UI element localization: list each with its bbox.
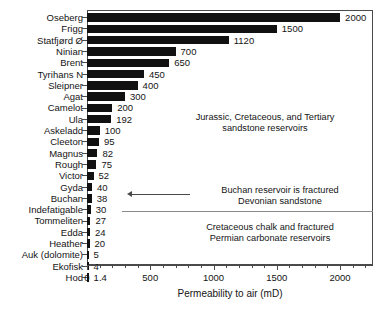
x-axis-title: Permeability to air (mD) xyxy=(87,288,373,299)
x-axis-minor-tick xyxy=(252,265,253,268)
bar-value-label: 75 xyxy=(101,159,112,170)
x-axis-tick-label: 2000 xyxy=(330,272,351,283)
category-label: Cleeton xyxy=(0,136,83,147)
bar xyxy=(87,70,144,78)
chart-row: Magnus82 xyxy=(0,148,392,159)
x-axis-minor-tick xyxy=(264,265,265,268)
x-axis-minor-tick xyxy=(315,265,316,268)
bar-value-label: 1120 xyxy=(234,35,254,46)
bar-value-label: 5 xyxy=(94,249,99,260)
x-axis-major-tick xyxy=(87,265,88,270)
buchan-arrow-head xyxy=(127,191,132,197)
category-label: Rough xyxy=(0,159,83,170)
annotation-line-2: Devonian sandstone xyxy=(190,196,370,207)
chart-row: Victor52 xyxy=(0,170,392,181)
x-axis-minor-tick xyxy=(289,265,290,268)
annotation-line-1: Cretaceous chalk and fractured xyxy=(170,222,370,233)
bar xyxy=(87,239,90,247)
category-label: Camelot xyxy=(0,102,83,113)
bar xyxy=(87,138,99,146)
x-axis-minor-tick xyxy=(125,265,126,268)
x-axis-major-tick xyxy=(214,265,215,270)
bar xyxy=(87,217,90,225)
category-label: Ninian xyxy=(0,46,83,57)
bar-value-label: 52 xyxy=(99,170,110,181)
bar xyxy=(87,251,89,259)
bar-value-label: 1.4 xyxy=(94,272,107,283)
chart-row: Cleeton95 xyxy=(0,136,392,147)
chart-row: Ekofisk4 xyxy=(0,261,392,272)
chart-row: Sleipner400 xyxy=(0,80,392,91)
bar-value-label: 24 xyxy=(95,227,106,238)
annotation-sandstone-note: Jurassic, Cretaceous, and Tertiary sands… xyxy=(160,112,370,133)
annotation-line-2: Permian carbonate reservoirs xyxy=(170,233,370,244)
category-label: Hod xyxy=(0,272,83,283)
annotation-line-1: Jurassic, Cretaceous, and Tertiary xyxy=(160,112,370,123)
bar-value-label: 27 xyxy=(95,215,106,226)
x-axis-minor-tick xyxy=(188,265,189,268)
chart-row: Statfjørd Ø1120 xyxy=(0,35,392,46)
bar xyxy=(87,126,100,134)
x-axis-minor-tick xyxy=(353,265,354,268)
bar-value-label: 82 xyxy=(102,148,113,159)
annotation-line-1: Buchan reservoir is fractured xyxy=(190,185,370,196)
annotation-buchan-note: Buchan reservoir is fractured Devonian s… xyxy=(190,185,370,206)
x-axis-tick-label: 500 xyxy=(142,272,158,283)
x-axis-minor-tick xyxy=(138,265,139,268)
category-label: Magnus xyxy=(0,148,83,159)
bar xyxy=(87,47,176,55)
chart-row: Frigg1500 xyxy=(0,23,392,34)
x-axis-minor-tick xyxy=(327,265,328,268)
bar xyxy=(87,104,112,112)
x-axis-major-tick xyxy=(277,265,278,270)
bar-value-label: 400 xyxy=(143,80,159,91)
bar-value-label: 4 xyxy=(94,261,99,272)
bar xyxy=(87,25,277,33)
category-label: Heather xyxy=(0,238,83,249)
bar xyxy=(87,194,92,202)
bar xyxy=(87,160,96,168)
category-label: Askeladd xyxy=(0,125,83,136)
category-label: Statfjørd Ø xyxy=(0,35,83,46)
bar-value-label: 1500 xyxy=(282,23,303,34)
bar xyxy=(87,13,340,21)
permeability-bar-chart: Oseberg2000Frigg1500Statfjørd Ø1120Ninia… xyxy=(0,0,392,327)
bar xyxy=(87,92,125,100)
bar xyxy=(87,228,90,236)
x-axis-minor-tick xyxy=(365,265,366,268)
chart-row: Tyrihans N450 xyxy=(0,69,392,80)
category-label: Buchan xyxy=(0,193,83,204)
bar xyxy=(87,183,92,191)
x-axis-minor-tick xyxy=(201,265,202,268)
chart-row: Rough75 xyxy=(0,159,392,170)
category-label: Oseberg xyxy=(0,12,83,23)
bar-value-label: 100 xyxy=(105,125,121,136)
chart-row: Brent650 xyxy=(0,57,392,68)
annotation-line-2: sandstone reservoirs xyxy=(160,123,370,134)
bar-value-label: 700 xyxy=(181,46,197,57)
category-label: Indefatigable xyxy=(0,204,83,215)
bar-value-label: 200 xyxy=(117,102,133,113)
chart-row: Oseberg2000 xyxy=(0,12,392,23)
x-axis-minor-tick xyxy=(226,265,227,268)
buchan-arrow-line xyxy=(132,194,190,195)
x-axis-line xyxy=(87,265,373,266)
bar xyxy=(87,81,138,89)
chart-row: Auk (dolomite)5 xyxy=(0,249,392,260)
x-axis-minor-tick xyxy=(176,265,177,268)
x-axis-minor-tick xyxy=(239,265,240,268)
chart-row: Agat300 xyxy=(0,91,392,102)
bar xyxy=(87,172,94,180)
category-label: Ekofisk xyxy=(0,261,83,272)
bar-value-label: 2000 xyxy=(345,12,366,23)
x-axis-major-tick xyxy=(150,265,151,270)
bar-value-label: 95 xyxy=(104,136,115,147)
bar xyxy=(87,149,97,157)
x-axis-minor-tick xyxy=(100,265,101,268)
bar-value-label: 40 xyxy=(97,182,108,193)
bar-value-label: 450 xyxy=(149,69,165,80)
x-axis-major-tick xyxy=(340,265,341,270)
x-axis-minor-tick xyxy=(112,265,113,268)
bar-value-label: 20 xyxy=(95,238,106,249)
x-axis-minor-tick xyxy=(302,265,303,268)
